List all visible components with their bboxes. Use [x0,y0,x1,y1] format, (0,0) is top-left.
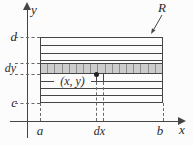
strip-cell [149,64,156,73]
guide-a-line [40,103,41,121]
a-label: a [34,124,46,138]
strip-cell [77,64,84,73]
guide-dx-right-line [103,82,104,121]
guide-dy-bottom-line [15,74,40,75]
strip-cell [156,64,162,73]
x-axis-line [10,121,181,122]
strip-cell [141,64,148,73]
y-axis-label: y [31,3,37,17]
strip-cell [63,64,70,73]
b-label: b [154,124,166,138]
x-axis-label: x [179,123,185,137]
y-axis-line [27,7,28,138]
cell-right-edge [103,74,104,82]
y-axis-arrow-icon [23,2,31,10]
strip-cell [127,64,134,73]
strip-cell [134,64,141,73]
guide-d-line [15,37,40,38]
guide-c-line [15,103,40,104]
sample-point-label: (x, y) [54,75,91,88]
row-line [41,53,162,54]
strip-cell [98,64,105,73]
strip-cell [120,64,127,73]
strip-cell [84,64,91,73]
strip-cell [113,64,120,73]
row-line [41,60,162,61]
guide-b-line [163,103,164,121]
region-rectangle [40,37,163,103]
dy-label: dy [1,61,16,75]
figure-canvas: y x (x, y) d dy c a dx b R [0,0,193,145]
guide-dx-left-line [96,82,97,121]
guide-dy-top-line [15,63,40,64]
strip-cell [106,64,113,73]
sample-point-dot [94,72,99,77]
strip-cell [41,64,48,73]
strip [41,63,162,74]
dx-label: dx [90,124,109,138]
strip-cell [55,64,62,73]
c-label: c [7,96,17,110]
strip-cell [48,64,55,73]
strip-cell [70,64,77,73]
region-arrow-icon [147,13,165,37]
row-line [41,45,162,46]
d-label: d [5,30,17,44]
row-line [41,95,162,96]
row-line [41,88,162,89]
